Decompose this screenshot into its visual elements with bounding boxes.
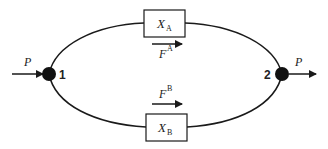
force-b-superscript: B xyxy=(167,84,172,93)
node-1-label: 1 xyxy=(59,68,66,82)
input-label: P xyxy=(23,55,32,69)
upper-branch-curve xyxy=(49,23,144,74)
box-xb-subscript: B xyxy=(167,128,172,137)
force-a-superscript: A xyxy=(167,44,173,53)
box-xa-label: X xyxy=(156,16,166,31)
box-xa-subscript: A xyxy=(166,24,172,33)
box-xa: X A xyxy=(144,10,185,37)
force-a-label: F xyxy=(158,47,167,61)
node-1-icon xyxy=(42,67,56,81)
node-2-icon xyxy=(275,67,289,81)
output-label: P xyxy=(294,55,303,69)
box-xb-label: X xyxy=(157,120,167,135)
box-xb: X B xyxy=(146,114,187,141)
force-b-label: F xyxy=(158,87,167,101)
parallel-network-diagram: X A X B F A F B P P 1 2 xyxy=(0,0,328,149)
node-2-label: 2 xyxy=(264,68,271,82)
upper-branch-curve-right xyxy=(185,23,282,74)
